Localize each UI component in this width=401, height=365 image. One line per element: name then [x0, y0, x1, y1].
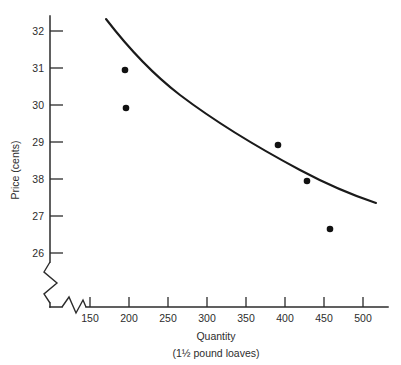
y-tick-label-29: 29 — [32, 136, 44, 148]
data-point — [123, 105, 130, 112]
x-axis-group — [50, 297, 388, 313]
x-tick-label-200: 200 — [120, 312, 138, 324]
x-tick-label-450: 450 — [315, 312, 333, 324]
data-point — [327, 226, 334, 233]
x-tick-label-300: 300 — [198, 312, 216, 324]
demand-curve-line — [106, 19, 376, 203]
x-tick-marks — [90, 297, 363, 307]
x-tick-label-150: 150 — [81, 312, 99, 324]
y-tick-label-31: 31 — [32, 62, 44, 74]
chart-page: 32 31 30 29 38 27 26 150 200 250 300 350 — [0, 0, 401, 365]
y-tick-labels: 32 31 30 29 38 27 26 — [32, 25, 44, 259]
x-tick-label-350: 350 — [237, 312, 255, 324]
y-axis-break-icon — [44, 262, 57, 303]
data-point — [275, 142, 282, 149]
data-point — [304, 178, 311, 185]
y-tick-label-32: 32 — [32, 25, 44, 37]
demand-curve-chart: 32 31 30 29 38 27 26 150 200 250 300 350 — [0, 0, 401, 365]
data-points-group — [122, 67, 334, 233]
data-point — [122, 67, 129, 74]
x-tick-label-500: 500 — [354, 312, 372, 324]
x-axis-break-icon — [62, 297, 86, 313]
y-axis-title: Price (cents) — [9, 141, 21, 200]
x-tick-labels: 150 200 250 300 350 400 450 500 — [81, 312, 372, 324]
y-tick-label-27: 27 — [32, 210, 44, 222]
x-tick-label-400: 400 — [276, 312, 294, 324]
y-tick-label-26: 26 — [32, 247, 44, 259]
x-axis-title: Quantity — [196, 330, 236, 342]
x-axis-subtitle: (1½ pound loaves) — [173, 347, 260, 359]
y-axis-group — [44, 16, 57, 307]
x-tick-label-250: 250 — [159, 312, 177, 324]
y-tick-marks — [50, 31, 63, 253]
y-tick-label-28: 38 — [32, 173, 44, 185]
y-tick-label-30: 30 — [32, 99, 44, 111]
